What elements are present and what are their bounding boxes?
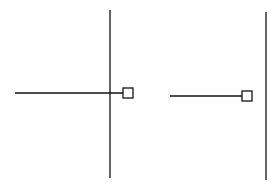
right-square-terminal	[242, 91, 252, 101]
left-square-terminal	[123, 88, 133, 98]
right-figure	[170, 12, 266, 180]
left-figure	[15, 10, 133, 178]
diagram-canvas	[0, 0, 276, 188]
